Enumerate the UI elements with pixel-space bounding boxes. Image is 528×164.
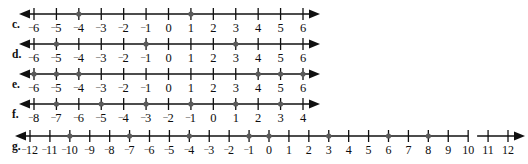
number-line-worksheet: c.–6–5–4–3–2–10123456d.–6–5–4–3–2–101234… [0,0,528,164]
axis-area-c: –6–5–4–3–2–10123456 [0,0,528,33]
tick-label: 8 [425,144,431,156]
tick-label: 2 [306,144,312,156]
tick-label: 7 [405,144,411,156]
tick-label: –12 [22,144,38,156]
tick-label: –6 [145,144,155,156]
tick-label: –8 [105,144,115,156]
tick-label: 1 [286,144,292,156]
number-line-row-c: c.–6–5–4–3–2–10123456 [0,0,528,33]
tick-label: –11 [42,144,57,156]
number-line-row-d: d.–6–5–4–3–2–10123456 [0,30,528,63]
tick-label: –1 [244,144,254,156]
number-line-row-g: g.–12–11–10–9–8–7–6–5–4–3–2–101234567891… [0,122,528,155]
tick-label: –5 [165,144,175,156]
tick-label: –4 [184,144,194,156]
axis-area-e: –6–5–4–3–2–10123456 [0,60,528,93]
tick-label: 10 [462,144,474,156]
tick-label-group-c: –6–5–4–3–2–10123456 [0,0,528,33]
axis-area-g: –12–11–10–9–8–7–6–5–4–3–2–10123456789101… [0,122,528,155]
tick-label: 3 [326,144,332,156]
tick-label: 6 [386,144,392,156]
tick-label: 12 [502,144,514,156]
tick-label: 11 [482,144,494,156]
tick-label: –9 [85,144,95,156]
tick-label: 0 [266,144,272,156]
tick-label-group-e: –6–5–4–3–2–10123456 [0,60,528,93]
tick-label: –7 [125,144,135,156]
tick-label-group-d: –6–5–4–3–2–10123456 [0,30,528,63]
tick-label: 4 [346,144,352,156]
number-line-row-e: e.–6–5–4–3–2–10123456 [0,60,528,93]
tick-label: 5 [366,144,372,156]
number-line-row-f: f.–8–7–6–5–4–3–2–101234 [0,90,528,123]
axis-area-f: –8–7–6–5–4–3–2–101234 [0,90,528,123]
tick-label-group-f: –8–7–6–5–4–3–2–101234 [0,90,528,123]
tick-label-group-g: –12–11–10–9–8–7–6–5–4–3–2–10123456789101… [0,122,528,155]
axis-area-d: –6–5–4–3–2–10123456 [0,30,528,63]
tick-label: –10 [62,144,78,156]
tick-label: 9 [445,144,451,156]
tick-label: –2 [224,144,234,156]
tick-label: –3 [204,144,214,156]
